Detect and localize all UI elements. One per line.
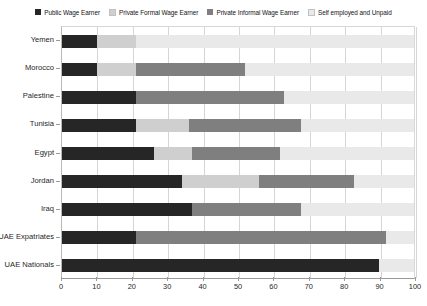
legend-item[interactable]: Self employed and Unpaid <box>308 9 392 16</box>
legend-label: Private Informal Wage Earner <box>216 9 299 16</box>
y-axis-tick <box>56 265 60 266</box>
bar-segment[interactable] <box>97 63 136 76</box>
x-axis-tick <box>96 277 97 281</box>
bar-segment[interactable] <box>136 35 414 48</box>
y-axis-label: Jordan <box>31 176 54 185</box>
bar-row[interactable] <box>62 175 414 188</box>
chart-legend: Public Wage EarnerPrivate Formal Wage Ea… <box>0 4 427 20</box>
bar-segment[interactable] <box>62 119 136 132</box>
bar-segment[interactable] <box>192 203 301 216</box>
bar-segment[interactable] <box>62 203 192 216</box>
x-axis-tick <box>238 277 239 281</box>
gridline <box>416 27 417 278</box>
y-axis-tick <box>56 124 60 125</box>
bar-segment[interactable] <box>62 63 97 76</box>
y-axis-label: Palestine <box>23 91 54 100</box>
bar-segment[interactable] <box>62 259 379 272</box>
y-axis-tick <box>56 209 60 210</box>
legend-swatch-icon <box>308 9 315 16</box>
x-axis-labels: 0102030405060708090100 <box>61 282 415 296</box>
bar-segment[interactable] <box>136 119 189 132</box>
bar-segment[interactable] <box>62 91 136 104</box>
x-axis-label: 80 <box>340 282 348 291</box>
y-axis-label: Morocco <box>25 63 54 72</box>
x-axis-tick <box>415 277 416 281</box>
legend-swatch-icon <box>35 9 41 15</box>
x-axis-label: 30 <box>163 282 171 291</box>
bar-segment[interactable] <box>386 231 414 244</box>
x-axis-label: 60 <box>269 282 277 291</box>
bar-row[interactable] <box>62 63 414 76</box>
bar-segment[interactable] <box>301 203 414 216</box>
y-axis-tick <box>56 181 60 182</box>
bar-segment[interactable] <box>62 35 97 48</box>
bar-segment[interactable] <box>284 91 414 104</box>
bar-segment[interactable] <box>136 63 245 76</box>
x-axis-tick <box>273 277 274 281</box>
bar-segment[interactable] <box>97 35 136 48</box>
x-axis-label: 10 <box>92 282 100 291</box>
bar-segment[interactable] <box>189 119 302 132</box>
bar-segment[interactable] <box>154 147 193 160</box>
bar-segment[interactable] <box>136 91 284 104</box>
bar-segment[interactable] <box>62 231 136 244</box>
stacked-bars <box>62 27 414 278</box>
x-axis-tick <box>309 277 310 281</box>
x-axis-tick <box>167 277 168 281</box>
y-axis-tick <box>56 68 60 69</box>
y-axis-label: Egypt <box>35 148 54 157</box>
bar-segment[interactable] <box>136 231 386 244</box>
bar-row[interactable] <box>62 91 414 104</box>
y-axis-label: Tunisia <box>30 119 54 128</box>
legend-label: Public Wage Earner <box>44 9 100 16</box>
x-axis-label: 20 <box>128 282 136 291</box>
bar-segment[interactable] <box>259 175 354 188</box>
bar-segment[interactable] <box>301 119 414 132</box>
legend-item[interactable]: Public Wage Earner <box>35 9 100 16</box>
x-axis-label: 0 <box>59 282 63 291</box>
y-axis-label: Yemen <box>31 35 54 44</box>
chart-plot-area <box>61 26 415 279</box>
y-axis-labels: YemenMoroccoPalestineTunisiaEgyptJordanI… <box>0 26 58 279</box>
bar-segment[interactable] <box>192 147 280 160</box>
bar-segment[interactable] <box>354 175 414 188</box>
bar-row[interactable] <box>62 259 414 272</box>
bar-row[interactable] <box>62 35 414 48</box>
x-axis-tick <box>380 277 381 281</box>
bar-row[interactable] <box>62 147 414 160</box>
x-axis-label: 50 <box>234 282 242 291</box>
x-axis-label: 40 <box>198 282 206 291</box>
bar-row[interactable] <box>62 231 414 244</box>
y-axis-tick <box>56 153 60 154</box>
bar-row[interactable] <box>62 203 414 216</box>
x-axis-label: 100 <box>409 282 421 291</box>
legend-item[interactable]: Private Informal Wage Earner <box>207 9 299 16</box>
bar-segment[interactable] <box>245 63 414 76</box>
x-axis-label: 90 <box>375 282 383 291</box>
y-axis-label: UAE Nationals <box>5 260 54 269</box>
y-axis-tick <box>56 40 60 41</box>
bar-segment[interactable] <box>62 175 182 188</box>
bar-row[interactable] <box>62 119 414 132</box>
x-axis-tick <box>61 277 62 281</box>
bar-segment[interactable] <box>280 147 414 160</box>
x-axis-tick <box>132 277 133 281</box>
legend-swatch-icon <box>109 9 116 16</box>
bar-segment[interactable] <box>182 175 259 188</box>
x-axis-label: 70 <box>305 282 313 291</box>
legend-label: Self employed and Unpaid <box>318 9 392 16</box>
y-axis-tick <box>56 96 60 97</box>
legend-label: Private Formal Wage Earner <box>119 9 198 16</box>
y-axis-label: Iraq <box>41 204 54 213</box>
legend-item[interactable]: Private Formal Wage Earner <box>109 9 198 16</box>
y-axis-label: UAE Expatriates <box>0 232 54 241</box>
legend-swatch-icon <box>207 9 213 15</box>
x-axis-tick <box>203 277 204 281</box>
bar-segment[interactable] <box>62 147 154 160</box>
y-axis-tick <box>56 237 60 238</box>
x-axis-tick <box>344 277 345 281</box>
bar-segment[interactable] <box>379 259 414 272</box>
